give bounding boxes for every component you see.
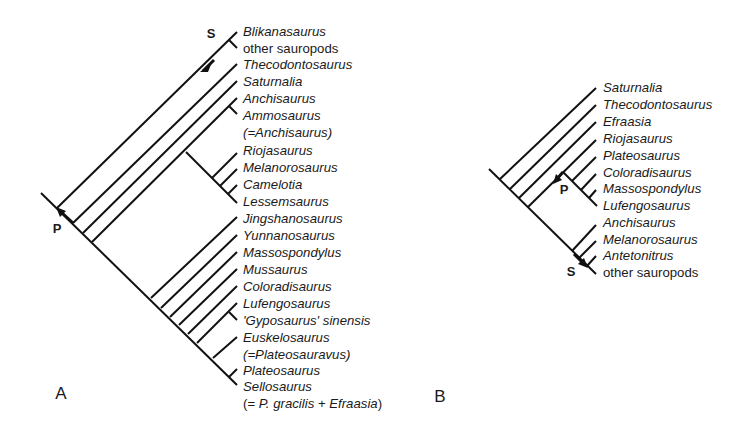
note-mid: +	[314, 396, 329, 411]
taxon-label: Lufengosaurus	[243, 296, 330, 312]
taxon-label: Sellosaurus	[243, 379, 312, 395]
taxon-label: Plateosaurus	[243, 363, 320, 379]
taxon-label: Melanorosaurus	[603, 232, 698, 248]
taxon-label: Lufengosaurus	[603, 198, 690, 214]
panel-label-b: B	[434, 387, 445, 407]
taxon-label: 'Gyposaurus' sinensis	[243, 313, 370, 329]
note-part1: P. gracilis	[259, 396, 314, 411]
taxon-label: Massospondylus	[243, 245, 341, 261]
node-label-s: S	[567, 264, 576, 279]
taxon-label: Blikanasaurus	[243, 24, 326, 40]
taxon-label: Coloradisaurus	[603, 165, 692, 181]
taxon-label: Yunnanosaurus	[243, 228, 335, 244]
taxon-label: Antetonitrus	[603, 248, 673, 264]
node-label-p: P	[53, 221, 62, 236]
taxon-label: Saturnalia	[243, 74, 302, 90]
taxon-label: Mussaurus	[243, 262, 308, 278]
node-label-s: S	[207, 26, 216, 41]
note-prefix: (=	[243, 396, 259, 411]
taxon-label: (=Plateosauravus)	[243, 347, 350, 363]
taxon-label: Anchisaurus	[243, 91, 316, 107]
taxon-label: Lessemsaurus	[243, 194, 329, 210]
taxon-label: Riojasaurus	[243, 143, 313, 159]
taxon-label: Thecodontosaurus	[243, 57, 352, 73]
node-label-p: P	[560, 182, 569, 197]
taxon-label: Anchisaurus	[603, 215, 676, 231]
taxon-label: Camelotia	[243, 177, 302, 193]
taxon-label: Coloradisaurus	[243, 279, 332, 295]
taxon-label: (=Anchisaurus)	[243, 125, 332, 141]
taxon-label: other sauropods	[603, 265, 698, 281]
taxon-label: other sauropods	[243, 41, 338, 57]
taxon-label: Melanorosaurus	[243, 160, 338, 176]
sellosaurus-synonym-note: (= P. gracilis + Efraasia)	[243, 396, 382, 412]
note-suffix: )	[378, 396, 382, 411]
panel-label-a: A	[55, 384, 66, 404]
taxon-label: Riojasaurus	[603, 131, 673, 147]
note-part2: Efraasia	[329, 396, 377, 411]
taxon-label: Massospondylus	[603, 181, 701, 197]
taxon-label: Jingshanosaurus	[243, 211, 343, 227]
taxon-label: Plateosaurus	[603, 148, 680, 164]
taxon-label: Ammosaurus	[243, 108, 321, 124]
taxon-label: Thecodontosaurus	[603, 97, 712, 113]
taxon-label: Efraasia	[603, 114, 651, 130]
taxon-label: Euskelosaurus	[243, 330, 330, 346]
taxon-label: Saturnalia	[603, 80, 662, 96]
